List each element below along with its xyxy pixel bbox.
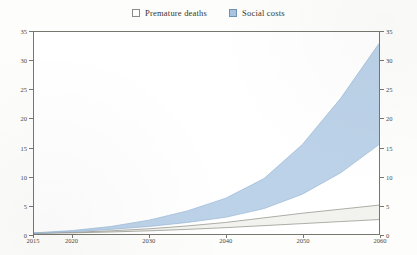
- y-axis-tick-left: [29, 148, 33, 149]
- y-axis-tick-right: [380, 148, 384, 149]
- y-axis-label-right: 15: [386, 144, 397, 151]
- x-axis-label: 2015: [27, 237, 40, 244]
- legend-item-label: Social costs: [242, 8, 285, 18]
- legend-item-social-costs[interactable]: Social costs: [229, 8, 285, 18]
- y-axis-tick-left: [29, 177, 33, 178]
- y-axis-label-right: 20: [386, 115, 397, 122]
- y-axis-label-left: 0: [16, 232, 27, 239]
- y-axis-tick-left: [29, 118, 33, 119]
- legend-item-label: Premature deaths: [145, 8, 207, 18]
- y-axis-label-left: 25: [16, 86, 27, 93]
- y-axis-label-left: 15: [16, 144, 27, 151]
- y-axis-label-right: 35: [386, 28, 397, 35]
- y-axis-tick-left: [29, 31, 33, 32]
- x-axis-label: 2040: [219, 237, 232, 244]
- plot-area: [33, 31, 380, 235]
- y-axis-tick-right: [380, 206, 384, 207]
- y-axis-label-left: 35: [16, 28, 27, 35]
- series-canvas: [34, 32, 379, 234]
- y-axis-label-right: 25: [386, 86, 397, 93]
- y-axis-label-left: 10: [16, 173, 27, 180]
- y-axis-label-right: 5: [386, 202, 397, 209]
- y-axis-label-right: 30: [386, 57, 397, 64]
- series-social-costs: [34, 44, 379, 234]
- legend-item-premature-deaths[interactable]: Premature deaths: [132, 8, 207, 18]
- y-axis-tick-left: [29, 60, 33, 61]
- chart-legend: Premature deaths Social costs: [0, 8, 417, 18]
- y-axis-tick-right: [380, 31, 384, 32]
- x-axis-label: 2030: [142, 237, 155, 244]
- y-axis-label-left: 5: [16, 202, 27, 209]
- y-axis-label-right: 0: [386, 232, 397, 239]
- y-axis-tick-left: [29, 206, 33, 207]
- y-axis-tick-right: [380, 118, 384, 119]
- legend-swatch-icon: [229, 9, 237, 17]
- y-axis-tick-right: [380, 60, 384, 61]
- x-axis-label: 2020: [65, 237, 78, 244]
- y-axis-label-right: 10: [386, 173, 397, 180]
- x-axis-label: 2050: [296, 237, 309, 244]
- x-axis-label: 2060: [374, 237, 387, 244]
- chart-figure: Premature deaths Social costs 0055101015…: [0, 0, 417, 255]
- y-axis-tick-right: [380, 177, 384, 178]
- legend-swatch-icon: [132, 9, 140, 17]
- y-axis-label-left: 20: [16, 115, 27, 122]
- y-axis-tick-right: [380, 89, 384, 90]
- y-axis-tick-left: [29, 89, 33, 90]
- y-axis-label-left: 30: [16, 57, 27, 64]
